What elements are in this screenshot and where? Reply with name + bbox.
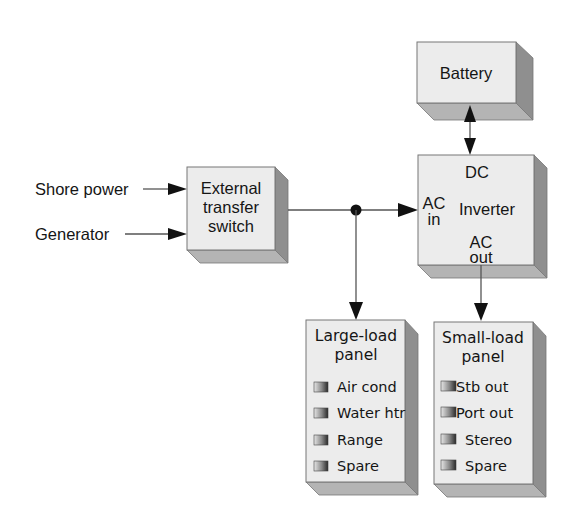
transfer-switch-line1: External bbox=[201, 179, 262, 197]
small-load-title-1: Small-load bbox=[442, 329, 524, 347]
large-load-panel: Large-load panel Air cond Water htr Rang… bbox=[306, 320, 418, 495]
inverter-box: DC AC in Inverter AC out bbox=[418, 155, 547, 278]
svg-text:Spare: Spare bbox=[337, 458, 379, 474]
arrow-icon bbox=[349, 302, 363, 320]
small-load-panel: Small-load panel Stb out Port out Stereo… bbox=[434, 322, 546, 497]
arrow-icon bbox=[168, 228, 187, 240]
breaker-indicator-icon bbox=[441, 434, 456, 444]
ac-bus-connector bbox=[288, 203, 418, 320]
svg-text:Stereo: Stereo bbox=[465, 432, 512, 448]
breaker-indicator-icon bbox=[314, 408, 328, 418]
breaker-indicator-icon bbox=[441, 407, 456, 417]
arrow-icon bbox=[398, 203, 418, 217]
svg-text:Range: Range bbox=[337, 432, 383, 448]
arrow-down-icon bbox=[464, 138, 476, 155]
transfer-switch-line3: switch bbox=[208, 217, 254, 235]
arrow-icon bbox=[168, 183, 187, 195]
breaker-indicator-icon bbox=[441, 381, 456, 391]
svg-text:Port out: Port out bbox=[456, 405, 513, 421]
battery-label: Battery bbox=[440, 64, 493, 82]
svg-text:Water htr: Water htr bbox=[337, 405, 405, 421]
small-load-title-2: panel bbox=[461, 348, 504, 366]
svg-text:Spare: Spare bbox=[465, 458, 507, 474]
svg-text:Stb out: Stb out bbox=[456, 379, 509, 395]
generator-input: Generator bbox=[35, 225, 187, 243]
breaker-indicator-icon bbox=[441, 460, 456, 470]
shore-power-input: Shore power bbox=[35, 180, 187, 198]
breaker-indicator-icon bbox=[314, 435, 328, 445]
svg-text:Air cond: Air cond bbox=[337, 379, 397, 395]
inverter-dc-label: DC bbox=[465, 163, 489, 181]
inverter-ac-out-label-2: out bbox=[470, 248, 493, 266]
inverter-title: Inverter bbox=[459, 200, 515, 218]
breaker-indicator-icon bbox=[314, 382, 328, 392]
battery-box: Battery bbox=[417, 42, 533, 120]
inverter-ac-in-label-2: in bbox=[428, 210, 441, 228]
breaker-indicator-icon bbox=[314, 461, 328, 471]
large-load-title-2: panel bbox=[334, 346, 377, 364]
arrow-icon bbox=[474, 303, 488, 321]
shore-power-label: Shore power bbox=[35, 180, 129, 198]
transfer-switch-line2: transfer bbox=[203, 198, 259, 216]
generator-label: Generator bbox=[35, 225, 110, 243]
external-transfer-switch-box: External transfer switch bbox=[187, 167, 288, 263]
large-load-title-1: Large-load bbox=[315, 327, 397, 345]
